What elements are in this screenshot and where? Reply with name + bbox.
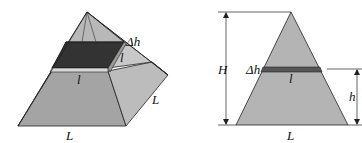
label-L-right: L [151,92,159,107]
label-L-bottom: L [65,128,73,143]
label-l-side: l [120,50,124,65]
label-L: L [286,128,294,143]
label-delta-h-right: Δh [245,62,260,77]
pyramid-diagram: Δh l l L L H Δh l h L [0,0,362,143]
label-h: h [349,89,356,104]
triangle-2d: H Δh l h L [217,12,362,143]
label-l: l [289,71,293,86]
label-delta-h-left: Δh [125,34,140,49]
label-l-front: l [77,72,81,87]
label-H: H [217,62,228,77]
pyramid-3d: Δh l l L L [18,12,168,143]
